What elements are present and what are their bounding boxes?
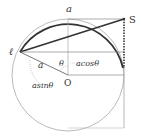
label-l: ℓ xyxy=(9,46,13,57)
label-top-a: a xyxy=(66,3,72,14)
bold-arc xyxy=(20,24,123,68)
label-o: O xyxy=(64,78,71,88)
label-radius-a: a xyxy=(38,60,43,70)
label-theta: θ xyxy=(59,59,64,68)
diagram-canvas: a S ℓ a θ O acosθ asinθ xyxy=(0,0,141,140)
caption xyxy=(4,130,137,136)
label-asin: asinθ xyxy=(32,81,54,90)
label-acos: acosθ xyxy=(76,59,99,68)
geometry-diagram: a S ℓ a θ O acosθ asinθ xyxy=(0,0,141,140)
point-s xyxy=(123,18,125,20)
label-s: S xyxy=(129,14,136,25)
